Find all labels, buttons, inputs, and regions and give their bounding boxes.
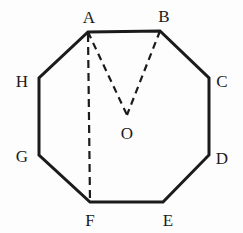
vertex-label-d: D <box>216 150 228 167</box>
vertex-label-h: H <box>16 73 28 90</box>
vertex-label-b: B <box>158 8 170 25</box>
vertex-label-g: G <box>16 148 28 165</box>
center-label-o: O <box>121 125 133 142</box>
dashed-line-a-to-f <box>88 34 90 202</box>
vertex-label-c: C <box>216 73 228 90</box>
dashed-line-a-to-o <box>88 32 127 115</box>
vertex-label-e: E <box>163 212 174 229</box>
octagon-diagram <box>0 0 243 233</box>
vertex-label-f: F <box>85 212 95 229</box>
octagon-outline <box>39 31 209 202</box>
dashed-line-b-to-o <box>127 31 160 115</box>
vertex-label-a: A <box>83 9 95 26</box>
figure-canvas: A B C D E F G H O <box>0 0 243 233</box>
